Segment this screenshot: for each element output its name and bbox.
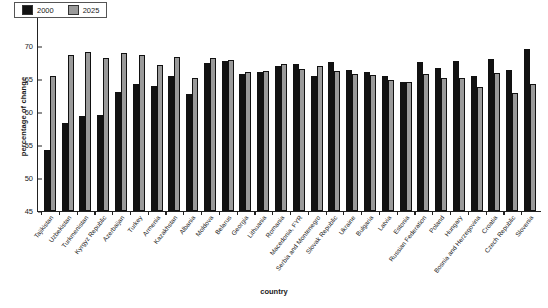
bar-group — [219, 13, 237, 211]
legend-label-2025: 2025 — [83, 6, 100, 15]
bar-group — [503, 13, 521, 211]
bar-group — [148, 13, 166, 211]
y-tick-70: 70 — [25, 42, 38, 51]
bar-group — [414, 13, 432, 211]
bar-group — [272, 13, 290, 211]
bar-group — [379, 13, 397, 211]
x-label-cell: Belarus — [218, 213, 236, 285]
bar-group — [183, 13, 201, 211]
x-axis-title: country — [0, 287, 548, 296]
bar-2025 — [157, 65, 163, 211]
y-tick-55: 55 — [25, 141, 38, 150]
bar-group — [343, 13, 361, 211]
y-tick-60: 60 — [25, 108, 38, 117]
bar-group — [308, 13, 326, 211]
x-axis-labels: TajikistanUzbekistanTurkmenistanKyrgyz R… — [37, 213, 540, 285]
x-axis-label: Turkey — [126, 214, 144, 234]
legend-item-2000: 2000 — [22, 5, 54, 15]
x-label-cell: Slovenia — [520, 213, 538, 285]
bar-2025 — [50, 76, 56, 211]
bar-group — [326, 13, 344, 211]
y-tick-65: 65 — [25, 75, 38, 84]
x-label-cell: Bosnia and Herzegovina — [467, 213, 485, 285]
bar-group — [361, 13, 379, 211]
legend-swatch-2025 — [68, 5, 79, 15]
bar-2025 — [85, 52, 91, 211]
bar-group — [432, 13, 450, 211]
bar-group — [450, 13, 468, 211]
bar-group — [486, 13, 504, 211]
bar-2025 — [494, 73, 500, 211]
bar-2025 — [210, 58, 216, 211]
bar-2025 — [68, 55, 74, 211]
x-label-cell: Russian Federation — [413, 213, 431, 285]
x-label-cell: Moldova — [200, 213, 218, 285]
bar-2025 — [245, 72, 251, 211]
bar-group — [94, 13, 112, 211]
bar-2025 — [477, 87, 483, 211]
plot-area: 45505560657075 — [37, 13, 541, 212]
bar-2025 — [459, 78, 465, 211]
x-label-cell: Poland — [431, 213, 449, 285]
x-label-cell: Slovak Republic — [325, 213, 343, 285]
x-label-cell: Czech Republic — [502, 213, 520, 285]
x-label-cell: Azerbaijan — [111, 213, 129, 285]
x-label-cell: Albania — [182, 213, 200, 285]
y-axis-title: percentage of change — [19, 47, 28, 187]
bar-2025 — [192, 78, 198, 211]
legend-swatch-2000 — [22, 5, 33, 15]
y-tick-45: 45 — [25, 207, 38, 216]
bar-group — [41, 13, 59, 211]
bar-2025 — [281, 64, 287, 211]
bar-2025 — [530, 84, 536, 211]
x-label-cell: Armenia — [147, 213, 165, 285]
bar-2025 — [228, 60, 234, 211]
x-label-cell: Tajikistan — [40, 213, 58, 285]
bar-group — [201, 13, 219, 211]
bar-2025 — [139, 55, 145, 211]
bar-2025 — [121, 53, 127, 211]
bar-2025 — [299, 69, 305, 211]
x-label-cell: Kyrgyz Republic — [93, 213, 111, 285]
legend-label-2000: 2000 — [37, 6, 54, 15]
x-label-cell: Kazakhstan — [164, 213, 182, 285]
x-label-cell: Lithuania — [253, 213, 271, 285]
bar-group — [468, 13, 486, 211]
bar-2025 — [174, 57, 180, 211]
y-tick-50: 50 — [25, 174, 38, 183]
bar-2025 — [441, 78, 447, 211]
bar-2025 — [423, 74, 429, 211]
chart-legend: 2000 2025 — [14, 2, 107, 18]
bar-groups — [38, 13, 541, 211]
bar-group — [59, 13, 77, 211]
bar-2025 — [317, 66, 323, 211]
bar-2025 — [512, 93, 518, 211]
bar-2025 — [103, 58, 109, 211]
x-label-cell: Bulgaria — [360, 213, 378, 285]
x-label-cell: Ukraine — [342, 213, 360, 285]
bar-group — [165, 13, 183, 211]
bar-2025 — [334, 71, 340, 211]
x-label-cell: Turkey — [129, 213, 147, 285]
x-label-cell: Georgia — [236, 213, 254, 285]
bar-2025 — [263, 71, 269, 211]
bar-group — [397, 13, 415, 211]
bar-group — [254, 13, 272, 211]
bar-chart: percentage of change 45505560657075 2000… — [0, 0, 548, 308]
bar-group — [77, 13, 95, 211]
bar-group — [237, 13, 255, 211]
bar-group — [112, 13, 130, 211]
bar-group — [290, 13, 308, 211]
bar-group — [521, 13, 539, 211]
x-axis-label: Latvia — [376, 214, 392, 232]
bar-2025 — [388, 80, 394, 211]
bar-group — [130, 13, 148, 211]
legend-item-2025: 2025 — [68, 5, 100, 15]
bar-2025 — [370, 75, 376, 211]
bar-2025 — [352, 74, 358, 211]
bar-2025 — [406, 82, 412, 211]
